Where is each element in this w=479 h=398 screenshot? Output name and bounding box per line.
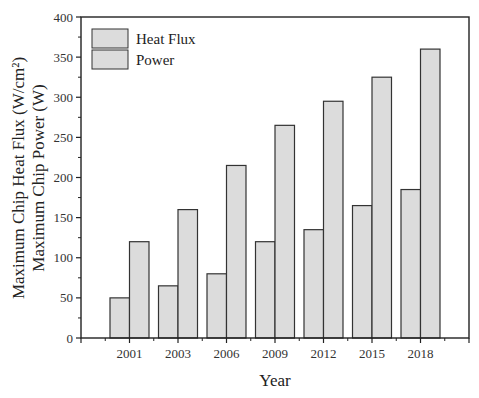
bar-power-2009	[275, 125, 295, 338]
y-tick-label: 250	[54, 130, 74, 145]
y-tick-label: 300	[54, 90, 74, 105]
bar-power-2018	[421, 49, 441, 338]
legend-label-power: Power	[136, 52, 174, 68]
bar-power-2001	[130, 242, 150, 338]
x-tick-label: 2015	[359, 346, 385, 361]
x-axis-title: Year	[259, 371, 291, 390]
bar-heat-flux-2009	[256, 242, 276, 338]
y-tick-label: 0	[67, 331, 74, 346]
y-axis-title-line-1: Maximum Chip Heat Flux (W/cm²)	[9, 57, 28, 299]
bar-power-2003	[178, 210, 198, 338]
x-tick-label: 2009	[262, 346, 288, 361]
y-tick-label: 200	[54, 170, 74, 185]
y-tick-label: 150	[54, 210, 74, 225]
y-tick-label: 50	[60, 290, 73, 305]
bar-power-2006	[227, 165, 247, 338]
bar-heat-flux-2012	[304, 230, 324, 338]
bars-group	[110, 49, 440, 338]
bar-power-2012	[324, 101, 344, 338]
legend: Heat FluxPower	[92, 29, 196, 69]
y-axis-title-line-2: Maximum Chip Power (W)	[29, 84, 48, 271]
x-tick-label: 2001	[117, 346, 143, 361]
x-tick-label: 2018	[408, 346, 434, 361]
legend-swatch-heat-flux	[92, 29, 128, 48]
y-tick-label: 400	[54, 10, 74, 25]
bar-heat-flux-2018	[401, 190, 421, 338]
y-tick-label: 100	[54, 250, 74, 265]
bar-heat-flux-2003	[159, 286, 179, 338]
bar-chart: 0501001502002503003504002001200320062009…	[0, 0, 479, 398]
x-tick-label: 2003	[165, 346, 191, 361]
x-tick-label: 2006	[214, 346, 241, 361]
bar-power-2015	[372, 77, 392, 338]
bar-heat-flux-2001	[110, 298, 130, 338]
legend-swatch-power	[92, 50, 128, 69]
bar-heat-flux-2006	[207, 274, 227, 338]
x-tick-label: 2012	[311, 346, 337, 361]
y-tick-label: 350	[54, 50, 74, 65]
bar-heat-flux-2015	[353, 206, 373, 338]
legend-label-heat-flux: Heat Flux	[136, 31, 196, 47]
